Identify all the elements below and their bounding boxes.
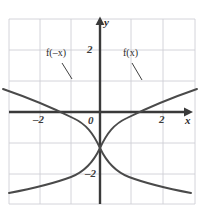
y-axis-label: y: [104, 17, 109, 28]
annotation-f-of-x-text: f(x): [123, 47, 138, 58]
annotation-f-of-negative-x: f(–x): [46, 48, 66, 58]
graph-canvas: [0, 0, 206, 221]
function-graph-figure: y x 0 –2 2 2 –2 f(–x) f(x): [0, 0, 206, 221]
x-tick-label-2: 2: [159, 114, 165, 125]
annotation-f-of-x: f(x): [123, 48, 138, 58]
annotation-f-of-negative-x-text: f(–x): [46, 47, 66, 58]
origin-label: 0: [88, 115, 94, 126]
x-tick-label-neg2: –2: [33, 114, 44, 125]
y-tick-label-2: 2: [87, 44, 93, 55]
x-axis-label: x: [185, 115, 191, 126]
y-tick-label-neg2: –2: [85, 168, 96, 179]
